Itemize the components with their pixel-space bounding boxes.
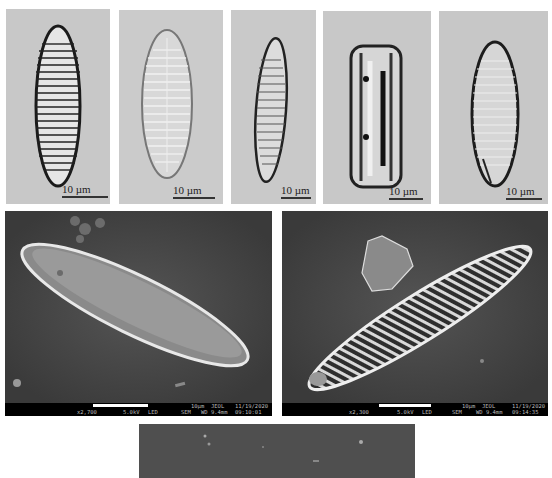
lm-panel-3: 10 µm — [231, 10, 316, 204]
scale-bar: 10 µm — [62, 183, 108, 198]
diatom-girdle-image — [323, 11, 431, 204]
scale-label: 10 µm — [281, 184, 310, 196]
sem-detector: LED — [422, 409, 432, 415]
lm-panel-2: 10 µm — [119, 10, 223, 204]
diatom-valve-image — [119, 10, 223, 204]
scale-label: 10 µm — [62, 183, 91, 195]
scale-label: 10 µm — [389, 185, 418, 197]
lm-panel-5: 10 µm — [439, 11, 548, 204]
lm-panel-1: 10 µm — [6, 9, 110, 204]
sem-panel-2: 10µm JEOL 11/19/2020 x2,300 5.0kV LED SE… — [282, 211, 548, 416]
sem-scale-label: 10µm — [462, 403, 475, 409]
sem-panel-3-partial — [139, 424, 415, 478]
sem-mode: SEM — [181, 409, 191, 415]
diatom-valve-image — [439, 11, 548, 204]
sem-mode: SEM — [452, 409, 462, 415]
sem-wd: WD 9.4mm — [476, 409, 503, 415]
scale-label: 10 µm — [173, 184, 202, 196]
sem-valve-image — [282, 211, 548, 403]
sem-info-bar: 10µm JEOL 11/19/2020 x2,300 5.0kV LED SE… — [282, 403, 548, 416]
scale-bar: 10 µm — [281, 184, 311, 199]
scale-bar: 10 µm — [389, 185, 423, 200]
sem-info-bar: 10µm JEOL 11/19/2020 x2,700 5.0kV LED SE… — [5, 403, 272, 416]
scale-bar: 10 µm — [173, 184, 215, 199]
sem-panel-1: 10µm JEOL 11/19/2020 x2,700 5.0kV LED SE… — [5, 211, 272, 416]
sem-time: 09:10:01 — [235, 409, 262, 415]
sem-background-image — [139, 424, 415, 478]
sem-voltage: 5.0kV — [397, 409, 414, 415]
lm-panel-4: 10 µm — [323, 11, 431, 204]
sem-voltage: 5.0kV — [123, 409, 140, 415]
diatom-valve-image — [6, 9, 110, 204]
diatom-valve-image — [231, 10, 316, 204]
sem-valve-image — [5, 211, 272, 403]
sem-wd: WD 9.4mm — [201, 409, 228, 415]
sem-magnification: x2,700 — [77, 409, 97, 415]
sem-time: 09:14:35 — [512, 409, 539, 415]
scale-label: 10 µm — [506, 185, 535, 197]
sem-detector: LED — [148, 409, 158, 415]
scale-bar: 10 µm — [506, 185, 542, 200]
sem-magnification: x2,300 — [349, 409, 369, 415]
